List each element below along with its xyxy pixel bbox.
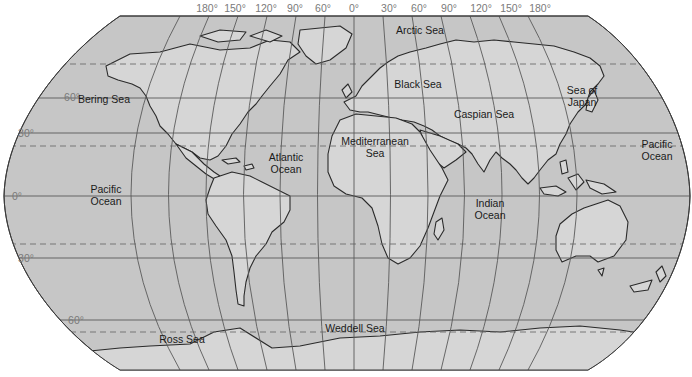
label-mediterranean-sea: Sea: [366, 147, 385, 159]
world-map: 180° 150° 120° 90° 60° 30° 0° 30° 60° 90…: [0, 0, 692, 377]
lon-label: 90°: [441, 2, 457, 14]
label-arctic-sea: Arctic Sea: [396, 24, 444, 36]
label-atlantic-ocean: Atlantic: [269, 151, 303, 163]
longitude-labels: 180° 150° 120° 90° 60° 30° 0° 30° 60° 90…: [196, 2, 551, 14]
label-pacific-ocean-west: Ocean: [91, 195, 122, 207]
lon-label: 90°: [287, 2, 303, 14]
lat-label: 30°: [18, 252, 34, 264]
label-sea-of-japan: Japan: [568, 96, 597, 108]
label-indian-ocean: Ocean: [475, 209, 506, 221]
label-atlantic-ocean: Ocean: [271, 163, 302, 175]
lon-label: 150°: [224, 2, 246, 14]
lon-label: 60°: [315, 2, 331, 14]
label-pacific-ocean-east: Ocean: [642, 150, 673, 162]
lon-label: 180°: [529, 2, 551, 14]
lat-label: 30°: [18, 127, 34, 139]
label-ross-sea: Ross Sea: [159, 333, 205, 345]
label-mediterranean-sea: Mediterranean: [341, 135, 409, 147]
lon-label: 150°: [500, 2, 522, 14]
lon-label: 60°: [411, 2, 427, 14]
label-pacific-ocean-east: Pacific: [642, 138, 673, 150]
lat-label: 0°: [12, 190, 22, 202]
label-black-sea: Black Sea: [394, 78, 441, 90]
label-sea-of-japan: Sea of: [567, 84, 597, 96]
label-caspian-sea: Caspian Sea: [454, 108, 514, 120]
lon-label: 30°: [381, 2, 397, 14]
lon-label: 120°: [255, 2, 277, 14]
lon-label: 120°: [470, 2, 492, 14]
lon-label: 0°: [349, 2, 359, 14]
lat-label: 60°: [68, 314, 84, 326]
lon-label: 180°: [196, 2, 218, 14]
label-pacific-ocean-west: Pacific: [91, 183, 122, 195]
label-bering-sea: Bering Sea: [78, 93, 130, 105]
label-indian-ocean: Indian: [476, 197, 505, 209]
label-weddell-sea: Weddell Sea: [325, 322, 385, 334]
